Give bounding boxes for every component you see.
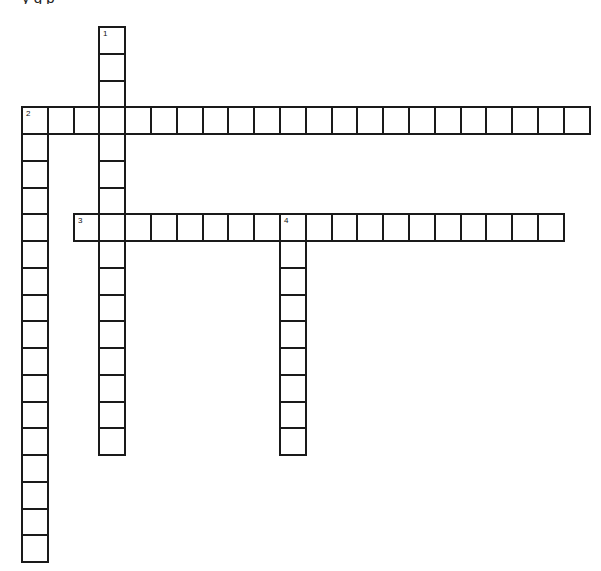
crossword-cell[interactable] xyxy=(98,347,126,376)
crossword-cell[interactable] xyxy=(279,267,307,296)
crossword-cell[interactable] xyxy=(124,213,152,242)
cell-letter-input[interactable] xyxy=(565,108,589,133)
cell-letter-input[interactable] xyxy=(100,429,124,454)
cell-letter-input[interactable] xyxy=(281,376,305,401)
cell-letter-input[interactable] xyxy=(23,296,47,320)
crossword-cell[interactable] xyxy=(279,294,307,322)
cell-letter-input[interactable] xyxy=(281,242,305,267)
crossword-cell[interactable] xyxy=(98,187,126,215)
crossword-cell[interactable] xyxy=(382,213,410,242)
crossword-cell[interactable]: 1 xyxy=(98,26,126,55)
cell-letter-input[interactable] xyxy=(100,215,124,240)
crossword-cell[interactable] xyxy=(21,401,49,429)
cell-letter-input[interactable] xyxy=(204,108,227,133)
cell-letter-input[interactable] xyxy=(100,349,124,374)
cell-letter-input[interactable] xyxy=(410,215,434,240)
cell-letter-input[interactable] xyxy=(100,162,124,187)
crossword-cell[interactable] xyxy=(21,160,49,189)
crossword-cell[interactable] xyxy=(537,213,565,242)
cell-letter-input[interactable] xyxy=(23,135,47,160)
crossword-cell[interactable]: 4 xyxy=(279,213,307,242)
crossword-cell[interactable] xyxy=(98,213,126,242)
cell-letter-input[interactable] xyxy=(100,403,124,427)
crossword-cell[interactable] xyxy=(150,106,178,135)
crossword-cell[interactable] xyxy=(227,213,255,242)
cell-letter-input[interactable] xyxy=(436,108,460,133)
cell-letter-input[interactable] xyxy=(281,269,305,294)
crossword-cell[interactable] xyxy=(21,481,49,510)
cell-letter-input[interactable] xyxy=(513,215,537,240)
cell-letter-input[interactable] xyxy=(100,296,124,320)
crossword-cell[interactable] xyxy=(279,240,307,269)
crossword-cell[interactable] xyxy=(253,106,281,135)
cell-letter-input[interactable] xyxy=(100,242,124,267)
crossword-cell[interactable] xyxy=(485,106,513,135)
crossword-cell[interactable] xyxy=(21,213,49,242)
cell-letter-input[interactable] xyxy=(23,215,47,240)
crossword-cell[interactable] xyxy=(460,106,487,135)
crossword-cell[interactable] xyxy=(98,53,126,82)
crossword-cell[interactable] xyxy=(279,427,307,456)
crossword-cell[interactable] xyxy=(176,213,204,242)
crossword-cell[interactable] xyxy=(21,347,49,376)
crossword-cell[interactable] xyxy=(21,187,49,215)
cell-letter-input[interactable] xyxy=(539,108,563,133)
crossword-cell[interactable] xyxy=(21,320,49,349)
cell-letter-input[interactable] xyxy=(100,376,124,401)
cell-letter-input[interactable] xyxy=(333,215,356,240)
crossword-cell[interactable] xyxy=(98,267,126,296)
crossword-cell[interactable] xyxy=(563,106,591,135)
crossword-cell[interactable] xyxy=(98,401,126,429)
cell-letter-input[interactable] xyxy=(281,349,305,374)
crossword-cell[interactable] xyxy=(21,133,49,162)
crossword-cell[interactable] xyxy=(176,106,204,135)
crossword-cell[interactable] xyxy=(124,106,152,135)
crossword-cell[interactable] xyxy=(21,534,49,563)
crossword-cell[interactable] xyxy=(98,80,126,108)
crossword-cell[interactable] xyxy=(98,106,126,135)
cell-letter-input[interactable] xyxy=(513,108,537,133)
cell-letter-input[interactable] xyxy=(23,536,47,561)
crossword-cell[interactable] xyxy=(21,240,49,269)
crossword-cell[interactable] xyxy=(202,213,229,242)
cell-letter-input[interactable] xyxy=(281,429,305,454)
cell-letter-input[interactable] xyxy=(49,108,73,133)
cell-letter-input[interactable] xyxy=(281,108,305,133)
cell-letter-input[interactable] xyxy=(178,215,202,240)
crossword-cell[interactable] xyxy=(434,106,462,135)
crossword-cell[interactable] xyxy=(279,106,307,135)
crossword-cell[interactable] xyxy=(356,106,384,135)
cell-letter-input[interactable] xyxy=(462,215,485,240)
crossword-cell[interactable] xyxy=(279,374,307,403)
crossword-cell[interactable] xyxy=(98,320,126,349)
cell-letter-input[interactable] xyxy=(281,296,305,320)
cell-letter-input[interactable] xyxy=(384,215,408,240)
cell-letter-input[interactable] xyxy=(23,242,47,267)
crossword-cell[interactable]: 2 xyxy=(21,106,49,135)
crossword-cell[interactable] xyxy=(279,401,307,429)
cell-letter-input[interactable] xyxy=(23,269,47,294)
cell-letter-input[interactable] xyxy=(487,215,511,240)
crossword-cell[interactable] xyxy=(150,213,178,242)
cell-letter-input[interactable] xyxy=(178,108,202,133)
crossword-cell[interactable] xyxy=(331,213,358,242)
crossword-cell[interactable] xyxy=(21,374,49,403)
crossword-cell[interactable] xyxy=(511,106,539,135)
crossword-cell[interactable] xyxy=(305,213,333,242)
cell-letter-input[interactable] xyxy=(23,322,47,347)
crossword-cell[interactable] xyxy=(98,294,126,322)
crossword-cell[interactable] xyxy=(98,427,126,456)
crossword-cell[interactable] xyxy=(460,213,487,242)
cell-letter-input[interactable] xyxy=(126,215,150,240)
crossword-cell[interactable] xyxy=(227,106,255,135)
cell-letter-input[interactable] xyxy=(281,403,305,427)
crossword-cell[interactable] xyxy=(434,213,462,242)
crossword-cell[interactable] xyxy=(98,374,126,403)
crossword-cell[interactable] xyxy=(356,213,384,242)
crossword-cell[interactable] xyxy=(98,160,126,189)
cell-letter-input[interactable] xyxy=(152,108,176,133)
cell-letter-input[interactable] xyxy=(75,215,98,240)
crossword-cell[interactable] xyxy=(331,106,358,135)
cell-letter-input[interactable] xyxy=(358,215,382,240)
crossword-cell[interactable] xyxy=(73,106,100,135)
